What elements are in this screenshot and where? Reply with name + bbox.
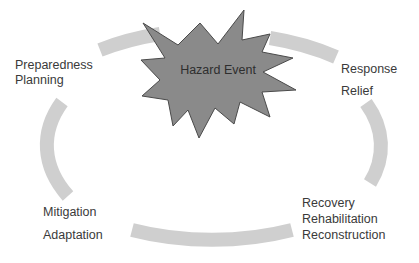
phase-line: Rehabilitation bbox=[302, 211, 385, 227]
phase-mitigation: Mitigation Adaptation bbox=[43, 201, 103, 247]
phase-line: Preparedness bbox=[15, 58, 93, 73]
phase-line: Reconstruction bbox=[302, 227, 385, 243]
phase-line: Relief bbox=[341, 80, 397, 102]
phase-line: Response bbox=[341, 58, 397, 80]
phase-preparedness: Preparedness Planning bbox=[15, 58, 93, 88]
phase-line: Recovery bbox=[302, 195, 385, 211]
phase-line: Adaptation bbox=[43, 224, 103, 247]
phase-response: Response Relief bbox=[341, 58, 397, 102]
arc-right bbox=[366, 103, 381, 183]
hazard-event: Hazard Event bbox=[141, 10, 296, 138]
phase-line: Mitigation bbox=[43, 201, 103, 224]
arc-top-right bbox=[270, 38, 336, 57]
hazard-event-label: Hazard Event bbox=[180, 63, 256, 77]
arc-bottom bbox=[132, 230, 292, 240]
arc-left bbox=[47, 102, 68, 196]
phase-recovery: Recovery Rehabilitation Reconstruction bbox=[302, 195, 385, 243]
phase-line: Planning bbox=[15, 73, 93, 88]
